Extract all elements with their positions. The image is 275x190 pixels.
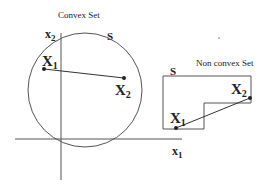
convex-set-label: S: [107, 30, 113, 42]
nonconvex-x1-label: X1: [170, 110, 186, 128]
x-axis-label: x1: [172, 144, 183, 160]
convex-x2-label: X2: [115, 82, 131, 100]
nonconvex-point-x2: [248, 96, 252, 100]
convex-point-x2: [122, 76, 126, 80]
nonconvex-point-x1: [174, 126, 178, 130]
convex-title: Convex Set: [58, 10, 100, 20]
y-axis-label: x2: [45, 27, 56, 43]
stray-dot: [218, 37, 219, 38]
convex-x1-label: X1: [42, 53, 58, 71]
nonconvex-x2-label: X2: [231, 81, 247, 99]
nonconvex-set-label: S: [170, 65, 176, 77]
nonconvex-title: Non convex Set: [196, 58, 254, 68]
convex-nonconvex-diagram: Convex Set S x2 X1 X2 Non convex Set S X…: [0, 0, 275, 190]
